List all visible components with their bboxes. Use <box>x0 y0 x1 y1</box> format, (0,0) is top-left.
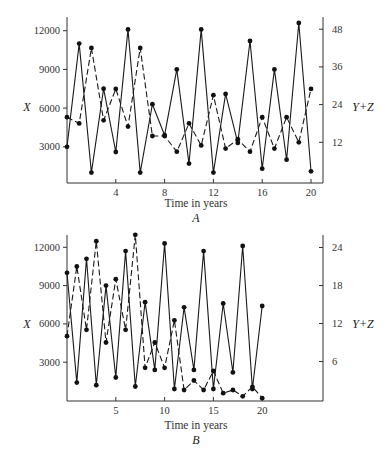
data-point-marker <box>199 27 204 32</box>
data-point-marker <box>89 46 94 51</box>
data-point-marker <box>152 340 157 345</box>
x-tick-label: 15 <box>208 405 219 416</box>
right-tick-label: 6 <box>332 356 337 367</box>
chart-panel-b: 3000600090001200061218245101520XY+ZTime … <box>22 232 374 447</box>
data-point-marker <box>138 170 143 175</box>
right-tick-label: 12 <box>332 137 343 148</box>
data-point-marker <box>182 388 187 393</box>
data-point-marker <box>113 150 118 155</box>
series-y-plus-z-dashed-line <box>67 48 311 152</box>
panel-label: B <box>192 433 200 447</box>
left-tick-label: 3000 <box>39 357 60 368</box>
data-point-marker <box>296 21 301 26</box>
data-point-marker <box>133 384 138 389</box>
data-point-marker <box>162 365 167 370</box>
figure: 300060009000120001224364848121620XY+ZTim… <box>0 0 390 449</box>
data-point-marker <box>309 169 314 174</box>
right-tick-label: 36 <box>332 61 343 72</box>
right-tick-label: 24 <box>332 99 343 110</box>
data-point-marker <box>150 134 155 139</box>
data-point-marker <box>94 383 99 388</box>
data-point-marker <box>309 87 314 92</box>
data-point-marker <box>201 249 206 254</box>
data-point-marker <box>150 102 155 107</box>
data-point-marker <box>89 170 94 175</box>
data-point-marker <box>152 368 157 373</box>
x-tick-label: 4 <box>113 187 119 198</box>
data-point-marker <box>211 170 216 175</box>
x-axis-title: Time in years <box>165 419 228 432</box>
data-point-marker <box>284 115 289 120</box>
data-point-marker <box>260 396 265 401</box>
data-point-marker <box>126 27 131 32</box>
data-point-marker <box>77 121 82 126</box>
left-tick-label: 9000 <box>39 64 60 75</box>
data-point-marker <box>101 86 106 91</box>
data-point-marker <box>113 87 118 92</box>
data-point-marker <box>192 378 197 383</box>
data-point-marker <box>126 124 131 129</box>
data-point-marker <box>248 39 253 44</box>
data-point-marker <box>65 334 70 339</box>
data-point-marker <box>240 394 245 399</box>
data-point-marker <box>94 239 99 244</box>
data-point-marker <box>211 93 216 98</box>
data-point-marker <box>162 134 167 139</box>
data-point-marker <box>174 67 179 72</box>
left-tick-label: 12000 <box>34 242 60 253</box>
left-tick-label: 6000 <box>39 103 60 114</box>
data-point-marker <box>104 340 109 345</box>
data-point-marker <box>123 327 128 332</box>
x-tick-label: 5 <box>113 405 118 416</box>
x-tick-label: 20 <box>306 187 317 198</box>
left-tick-label: 12000 <box>34 25 60 36</box>
left-tick-label: 9000 <box>39 280 60 291</box>
data-point-marker <box>221 301 226 306</box>
data-point-marker <box>65 270 70 275</box>
right-axis-title: Y+Z <box>352 317 374 331</box>
data-point-marker <box>260 115 265 120</box>
data-point-marker <box>143 365 148 370</box>
x-tick-label: 16 <box>257 187 268 198</box>
data-point-marker <box>133 232 138 237</box>
data-point-marker <box>192 368 197 373</box>
right-tick-label: 48 <box>332 24 343 35</box>
right-tick-label: 24 <box>332 242 343 253</box>
data-point-marker <box>221 391 226 396</box>
left-axis-title: X <box>22 100 31 114</box>
left-tick-label: 6000 <box>39 318 60 329</box>
chart-panel-a: 300060009000120001224364848121620XY+ZTim… <box>22 17 374 225</box>
data-point-marker <box>74 380 79 385</box>
data-point-marker <box>231 388 236 393</box>
data-point-marker <box>235 137 240 142</box>
data-point-marker <box>172 387 177 392</box>
right-axis-title: Y+Z <box>352 100 374 114</box>
data-point-marker <box>211 387 216 392</box>
right-tick-label: 12 <box>332 318 343 329</box>
data-point-marker <box>172 318 177 323</box>
data-point-marker <box>74 264 79 269</box>
data-point-marker <box>65 144 70 149</box>
data-point-marker <box>296 140 301 145</box>
panel-label: A <box>191 211 200 225</box>
data-point-marker <box>143 300 148 305</box>
data-point-marker <box>113 375 118 380</box>
data-point-marker <box>174 149 179 154</box>
x-tick-label: 10 <box>159 405 170 416</box>
data-point-marker <box>260 304 265 309</box>
data-point-marker <box>101 118 106 123</box>
data-point-marker <box>250 384 255 389</box>
data-point-marker <box>231 370 236 375</box>
data-point-marker <box>201 388 206 393</box>
data-point-marker <box>113 277 118 282</box>
data-point-marker <box>260 166 265 171</box>
data-point-marker <box>84 327 89 332</box>
data-point-marker <box>223 146 228 151</box>
left-axis-title: X <box>22 317 31 331</box>
data-point-marker <box>284 157 289 162</box>
data-point-marker <box>123 249 128 254</box>
data-point-marker <box>138 46 143 51</box>
data-point-marker <box>272 146 277 151</box>
data-point-marker <box>162 241 167 246</box>
data-point-marker <box>84 256 89 261</box>
